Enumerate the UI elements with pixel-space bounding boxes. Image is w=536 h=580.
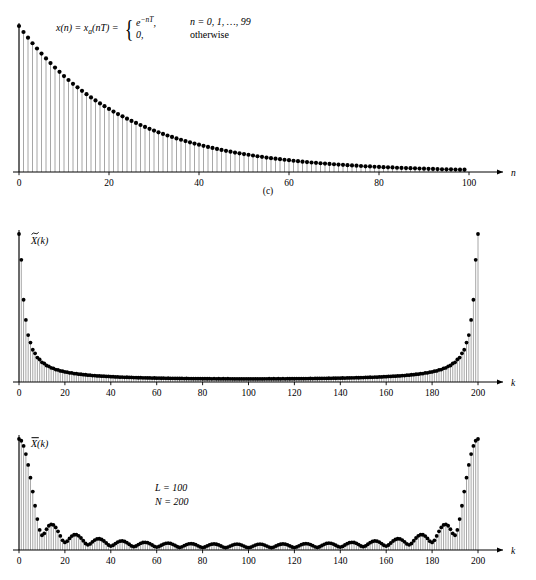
equation-xn: x(n) = xa(nT) = { e−nT, n = 0, 1, …, 99 … <box>56 16 251 42</box>
sample-point <box>449 167 453 171</box>
sample-point <box>120 114 124 118</box>
x-tick-label: 120 <box>287 388 302 398</box>
sample-point <box>446 524 450 528</box>
sample-point <box>255 154 259 158</box>
sample-point <box>33 504 37 508</box>
sample-point <box>264 155 268 159</box>
sample-point <box>460 504 464 508</box>
sample-point <box>465 341 469 345</box>
sample-point <box>440 167 444 171</box>
sample-point <box>197 143 201 147</box>
sample-point <box>31 490 35 494</box>
x-tick-label: 20 <box>60 388 70 398</box>
x-tick-label: 80 <box>198 388 208 398</box>
x-tick-label: 60 <box>152 388 162 398</box>
sample-point <box>260 155 264 159</box>
sample-point <box>29 341 33 345</box>
sample-point <box>75 85 79 89</box>
sample-point <box>467 333 471 337</box>
sample-point <box>282 158 286 162</box>
sample-point <box>188 140 192 144</box>
sample-point <box>323 161 327 165</box>
sample-point <box>377 165 381 169</box>
sample-point <box>33 351 37 355</box>
sample-point <box>116 112 120 116</box>
x-tick-label: 160 <box>379 556 394 566</box>
sample-point <box>458 517 462 521</box>
x-tick-label: 200 <box>471 556 486 566</box>
stem-lines <box>19 439 478 550</box>
x-tick-label: 0 <box>17 556 22 566</box>
sample-point <box>474 258 478 262</box>
sample-point <box>472 298 476 302</box>
y-axis-label: X(k) <box>30 438 49 450</box>
equation-case-2-condition: otherwise <box>190 29 229 42</box>
sample-point <box>462 168 466 172</box>
sample-point <box>22 444 26 448</box>
sample-point <box>89 95 93 99</box>
sample-point <box>336 162 340 166</box>
sample-point <box>469 452 473 456</box>
sample-point <box>476 232 480 236</box>
sample-point <box>431 167 435 171</box>
sample-point <box>345 163 349 167</box>
plot-e-svg: 020406080100120140160180200kX(k) <box>0 425 536 580</box>
sample-point <box>35 517 39 521</box>
sample-point <box>417 166 421 170</box>
sample-point <box>134 121 138 125</box>
sample-point <box>19 439 23 443</box>
equation-brace: { <box>124 18 133 40</box>
stem-lines <box>19 26 465 172</box>
sample-point <box>455 528 459 532</box>
sample-point <box>107 107 111 111</box>
sample-point <box>215 147 219 151</box>
sample-point <box>314 161 318 165</box>
sample-point <box>56 529 60 533</box>
x-axis-label: n <box>511 168 516 178</box>
x-axis-ticks: 020406080100120140160180200 <box>17 382 486 398</box>
sample-point <box>165 133 169 137</box>
panel-c-time-sequence: 020406080100n x(n) = xa(nT) = { e−nT, n … <box>0 0 536 200</box>
x-axis-arrowhead <box>497 169 503 174</box>
sample-point <box>327 162 331 166</box>
sample-point <box>71 82 75 86</box>
sample-point <box>183 139 187 143</box>
x-axis-arrowhead <box>497 379 503 384</box>
sample-point <box>444 167 448 171</box>
sample-point <box>426 167 430 171</box>
sample-point <box>21 30 25 34</box>
panel-e-dft-L20: 020406080100120140160180200kX(k) L = 20 … <box>0 425 536 580</box>
sample-point <box>363 164 367 168</box>
sample-point <box>170 135 174 139</box>
y-axis-label-text: X(k) <box>30 438 49 450</box>
sample-point <box>219 148 223 152</box>
sample-point <box>125 117 129 121</box>
sample-point <box>413 166 417 170</box>
sample-point <box>45 527 49 531</box>
sample-markers <box>17 24 467 172</box>
sample-point <box>210 146 214 150</box>
sample-point <box>435 534 439 538</box>
x-tick-label: 200 <box>471 388 486 398</box>
sample-point <box>206 145 210 149</box>
sample-point <box>390 165 394 169</box>
sample-point <box>453 167 457 171</box>
sample-point <box>93 98 97 102</box>
x-tick-label: 140 <box>333 556 348 566</box>
x-tick-label: 180 <box>425 388 440 398</box>
equation-lhs: x(n) = xa(nT) = <box>56 22 119 36</box>
stem-lines <box>19 234 478 382</box>
sample-point <box>22 298 26 302</box>
sample-point <box>161 132 165 136</box>
sample-point <box>399 166 403 170</box>
sample-point <box>98 101 102 105</box>
equation-case-1-exponent: −nT <box>140 15 153 24</box>
sample-point <box>269 156 273 160</box>
sample-point <box>242 152 246 156</box>
sample-point <box>476 437 480 441</box>
sample-point <box>449 527 453 531</box>
sample-point <box>233 150 237 154</box>
sample-point <box>462 348 466 352</box>
sample-point <box>174 136 178 140</box>
sample-point <box>39 51 43 55</box>
